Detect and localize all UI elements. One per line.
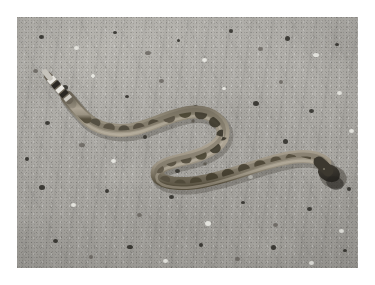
snake-rattle <box>45 72 72 104</box>
snake-head-group <box>315 161 350 193</box>
snake-body <box>67 96 326 188</box>
rattlesnake <box>17 17 358 268</box>
photograph-frame <box>17 17 358 268</box>
photograph <box>17 17 358 268</box>
image-canvas <box>0 0 375 285</box>
